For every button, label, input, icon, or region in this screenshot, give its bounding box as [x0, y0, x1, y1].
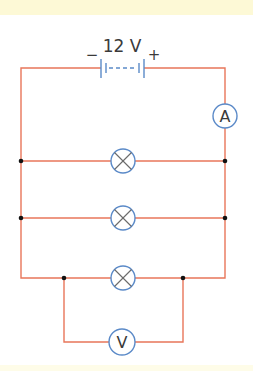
- junction-node: [181, 276, 186, 281]
- battery: 12 V − +: [86, 36, 161, 78]
- battery-positive-symbol: +: [148, 46, 161, 64]
- ammeter-label: A: [220, 107, 231, 126]
- junction-node: [19, 159, 24, 164]
- wires: [21, 68, 225, 342]
- battery-voltage-label: 12 V: [103, 36, 142, 56]
- junction-node: [62, 276, 67, 281]
- ammeter: A: [213, 104, 237, 128]
- lamp-1: [111, 149, 135, 173]
- wire-voltmeter-right: [135, 278, 183, 342]
- wire-right-rail: [183, 128, 225, 278]
- battery-negative-symbol: −: [86, 46, 99, 64]
- voltmeter: V: [109, 329, 135, 355]
- wire-top-right: [144, 68, 225, 104]
- wire-voltmeter-left: [64, 278, 109, 342]
- circuit-diagram: 12 V − + A V: [0, 0, 253, 371]
- lamp-3: [111, 266, 135, 290]
- voltmeter-label: V: [117, 333, 128, 352]
- lamp-2: [111, 206, 135, 230]
- junction-node: [19, 216, 24, 221]
- junction-node: [223, 159, 228, 164]
- wire-left-rail: [21, 68, 101, 278]
- junction-node: [223, 216, 228, 221]
